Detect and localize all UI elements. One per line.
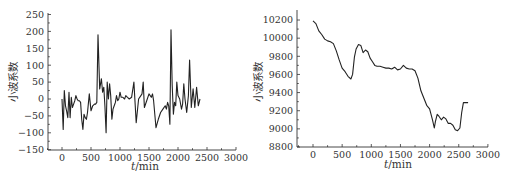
y-tick-label: 9800 [269, 51, 293, 62]
x-tick-label: 500 [333, 149, 351, 160]
x-tick-label: 2500 [195, 152, 219, 163]
y-tick-label: −50 [24, 110, 44, 121]
chart-figure: −150−100−5005010015020025005001000150020… [0, 0, 508, 181]
x-tick-label: 2000 [418, 149, 442, 160]
chart-left-detail-coefficients: −150−100−5005010015020025005001000150020… [7, 9, 248, 172]
x-tick-label: 2500 [447, 149, 471, 160]
y-tick-label: 9600 [269, 69, 293, 80]
left-y-axis-title: 小波系数 [7, 61, 19, 102]
y-tick-label: 9200 [269, 105, 293, 116]
y-tick-label: 100 [26, 60, 44, 71]
x-tick-label: 2000 [166, 152, 190, 163]
y-tick-label: 10000 [263, 32, 293, 43]
y-tick-label: 250 [26, 9, 44, 20]
left-data-line [62, 30, 200, 133]
y-tick-label: 0 [38, 93, 44, 104]
x-tick-label: 1000 [359, 149, 383, 160]
y-tick-label: 9400 [269, 87, 293, 98]
y-tick-label: −100 [18, 127, 44, 138]
left-x-axis-title: t/min [131, 160, 159, 172]
x-tick-label: 0 [310, 149, 316, 160]
x-tick-label: 1000 [108, 152, 132, 163]
right-axes: 8800900092009400960098001000010200050010… [263, 10, 500, 160]
x-tick-label: 3000 [476, 149, 500, 160]
y-tick-label: 8800 [269, 141, 293, 152]
y-tick-label: 200 [26, 26, 44, 37]
y-tick-label: 9000 [269, 123, 293, 134]
y-tick-label: 50 [32, 76, 44, 87]
y-tick-label: 10200 [263, 14, 293, 25]
x-tick-label: 3000 [224, 152, 248, 163]
y-tick-label: −150 [18, 144, 44, 155]
x-tick-label: 0 [59, 152, 65, 163]
right-y-axis-title: 小波系数 [252, 61, 264, 102]
right-x-axis-title: t/min [384, 158, 412, 170]
right-data-line [313, 21, 468, 131]
x-tick-label: 500 [82, 152, 100, 163]
y-tick-label: 150 [26, 43, 44, 54]
chart-right-approximation-coefficients: 8800900092009400960098001000010200050010… [252, 10, 500, 170]
